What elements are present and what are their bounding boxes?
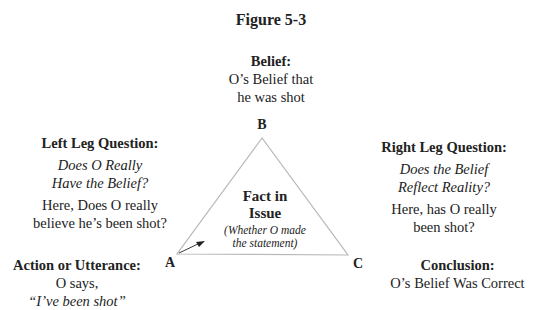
fact-sub-1: (Whether O made <box>200 224 330 237</box>
action-quote: “I’ve been shot” <box>2 292 152 310</box>
fact-in-issue: Fact in Issue (Whether O made the statem… <box>200 188 330 250</box>
fact-sub-2: the statement) <box>200 237 330 250</box>
vertex-b-label: B <box>254 117 270 133</box>
conclusion-heading: Conclusion: <box>375 256 540 274</box>
conclusion: Conclusion: O’s Belief Was Correct <box>375 256 540 292</box>
vertex-a-label: A <box>162 255 178 271</box>
action-heading: Action or Utterance: <box>2 256 152 274</box>
conclusion-line: O’s Belief Was Correct <box>375 274 540 292</box>
action-line: O says, <box>2 274 152 292</box>
action-utterance: Action or Utterance: O says, “I’ve been … <box>2 256 152 310</box>
vertex-c-label: C <box>350 256 366 272</box>
fact-line-1: Fact in <box>200 188 330 205</box>
fact-line-2: Issue <box>200 205 330 222</box>
